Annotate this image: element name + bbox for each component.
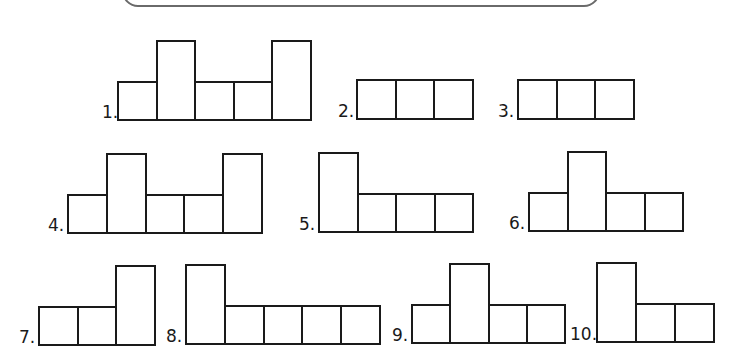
figure-number-label: 7. — [19, 329, 35, 346]
figure-number-label: 3. — [498, 103, 514, 120]
short-block — [183, 194, 224, 234]
short-block — [556, 79, 596, 120]
tall-block — [185, 264, 226, 345]
short-block — [488, 304, 528, 344]
short-block — [635, 303, 676, 343]
tall-block — [106, 153, 147, 234]
short-block — [356, 79, 397, 120]
short-block — [224, 305, 265, 345]
tall-block — [156, 40, 196, 121]
figure-number-label: 10. — [570, 326, 597, 343]
short-block — [38, 306, 79, 346]
instruction-banner — [122, 0, 600, 7]
tall-block — [567, 151, 607, 232]
short-block — [67, 194, 108, 234]
short-block — [233, 81, 273, 121]
tall-block — [271, 40, 312, 121]
figure-number-label: 9. — [392, 327, 408, 344]
figure-number-label: 4. — [48, 217, 64, 234]
figure-number-label: 2. — [338, 103, 354, 120]
short-block — [117, 81, 158, 121]
short-block — [594, 79, 635, 120]
short-block — [340, 305, 381, 345]
figure-number-label: 1. — [102, 104, 118, 121]
short-block — [434, 193, 474, 233]
short-block — [433, 79, 474, 120]
short-block — [301, 305, 342, 345]
short-block — [145, 194, 185, 234]
tall-block — [115, 265, 156, 346]
short-block — [194, 81, 235, 121]
figure-number-label: 8. — [166, 328, 182, 345]
tall-block — [596, 262, 637, 343]
short-block — [605, 192, 646, 232]
short-block — [357, 193, 397, 233]
tall-block — [222, 153, 263, 234]
short-block — [526, 304, 566, 344]
tall-block — [318, 152, 359, 233]
short-block — [411, 304, 451, 344]
figure-number-label: 5. — [299, 216, 315, 233]
figure-number-label: 6. — [509, 215, 525, 232]
short-block — [674, 303, 715, 343]
short-block — [395, 79, 435, 120]
short-block — [517, 79, 558, 120]
short-block — [263, 305, 303, 345]
short-block — [528, 192, 569, 232]
short-block — [644, 192, 684, 232]
tall-block — [449, 263, 490, 344]
short-block — [395, 193, 436, 233]
short-block — [77, 306, 117, 346]
